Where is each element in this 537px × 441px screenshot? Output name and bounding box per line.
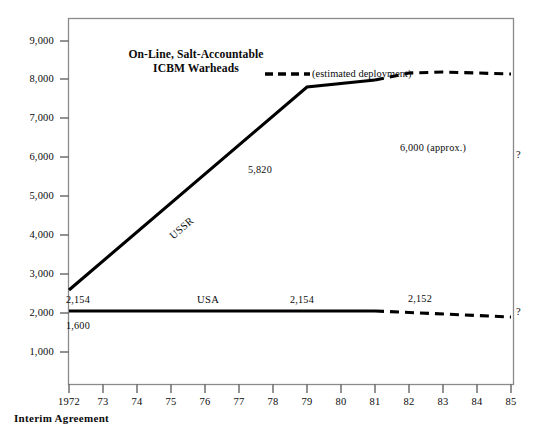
x-axis-tick-label-75: 75 [154, 396, 188, 408]
y-axis-tick-label-6000: 6,000 [12, 151, 54, 163]
y-axis-tick-label-7000: 7,000 [12, 112, 54, 124]
series-line-ussr-solid [69, 80, 375, 290]
value-label-usa-mid: 2,154 [290, 294, 314, 305]
legend-label-estimated-deployment: (estimated deployment) [312, 68, 412, 80]
x-axis-tick-label-83: 83 [426, 396, 460, 408]
uncertainty-marker-usa: ? [516, 306, 521, 318]
x-axis-tick-label-81: 81 [358, 396, 392, 408]
y-axis-tick-label-2000: 2,000 [12, 307, 54, 319]
value-label-usa-estimate: 2,152 [408, 293, 432, 304]
x-axis-tick-label-74: 74 [120, 396, 154, 408]
footnote-interim-agreement: Interim Agreement [14, 412, 109, 424]
x-axis-tick-label-84: 84 [460, 396, 494, 408]
y-axis-tick-label-1000: 1,000 [12, 346, 54, 358]
y-axis-tick-label-4000: 4,000 [12, 229, 54, 241]
value-label-ussr-start: 1,600 [66, 320, 90, 331]
chart-title-line-2: ICBM Warheads [96, 62, 296, 75]
x-axis-ticks [69, 385, 511, 394]
x-axis-tick-label-80: 80 [324, 396, 358, 408]
x-axis-tick-label-78: 78 [256, 396, 290, 408]
y-axis-tick-label-3000: 3,000 [12, 268, 54, 280]
x-axis-tick-label-73: 73 [86, 396, 120, 408]
value-label-ussr-estimate: 6,000 (approx.) [400, 142, 466, 153]
x-axis-tick-label-1972: 1972 [52, 396, 86, 408]
x-axis-tick-label-85: 85 [494, 396, 528, 408]
value-label-ussr-peak: 5,820 [248, 164, 272, 175]
x-axis-tick-label-76: 76 [188, 396, 222, 408]
value-label-usa-start: 2,154 [66, 294, 90, 305]
y-axis-tick-label-8000: 8,000 [12, 73, 54, 85]
chart-title-line-1: On-Line, Salt-Accountable [96, 48, 296, 61]
uncertainty-marker-ussr: ? [516, 149, 521, 161]
x-axis-tick-label-82: 82 [392, 396, 426, 408]
y-axis-tick-label-5000: 5,000 [12, 190, 54, 202]
series-label-usa: USA [197, 294, 219, 306]
series-line-usa-dashed [375, 311, 511, 317]
x-axis-tick-label-77: 77 [222, 396, 256, 408]
chart-container: 9,000 8,000 7,000 6,000 5,000 4,000 3,00… [0, 0, 537, 441]
y-axis-tick-label-9000: 9,000 [12, 35, 54, 47]
x-axis-tick-label-79: 79 [290, 396, 324, 408]
